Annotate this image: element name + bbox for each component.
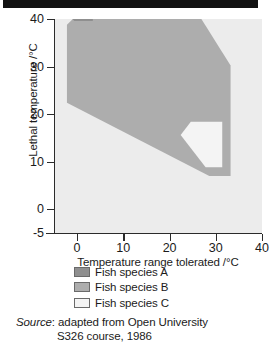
- legend-label-c: Fish species C: [95, 297, 169, 309]
- x-axis-label-20: 20: [150, 242, 190, 255]
- x-axis-tick-40: [262, 234, 263, 241]
- legend-item-fish-species-b: Fish species B: [0, 280, 280, 296]
- y-axis-tick-0: [47, 209, 54, 210]
- y-axis-label-minus5: -5: [4, 227, 44, 239]
- chart-legend: Fish species A Fish species B Fish speci…: [0, 264, 280, 311]
- page-top-black-bar: [3, 0, 258, 8]
- chart-figure: Lethal temperature /°C 40 30 20 10 0 -5 …: [0, 8, 280, 260]
- source-line-1: Source: adapted from Open University: [0, 315, 280, 329]
- x-axis-tick-10: [123, 234, 124, 241]
- y-axis-tick-20: [47, 114, 54, 115]
- source-line-2: S326 course, 1986: [0, 329, 280, 343]
- x-axis-label-0: 0: [57, 242, 97, 255]
- y-axis-label-40: 40: [4, 13, 44, 25]
- legend-item-fish-species-c: Fish species C: [0, 295, 280, 311]
- source-note: Source: adapted from Open University S32…: [0, 315, 280, 343]
- legend-item-fish-species-a: Fish species A: [0, 264, 280, 280]
- y-axis-tick-40: [47, 19, 54, 20]
- y-axis-label-10: 10: [4, 156, 44, 168]
- legend-swatch-icon-a: [74, 267, 90, 277]
- legend-label-a: Fish species A: [95, 266, 168, 278]
- legend-swatch-icon-c: [74, 298, 90, 308]
- y-axis-label-20: 20: [4, 108, 44, 120]
- y-axis-tick-10: [47, 162, 54, 163]
- x-axis-line: [46, 233, 262, 234]
- y-axis-label-0: 0: [4, 203, 44, 215]
- y-axis-tick-30: [47, 67, 54, 68]
- y-axis-label-30: 30: [4, 61, 44, 73]
- legend-swatch-icon-b: [74, 282, 90, 292]
- series-area-fish-species-a: [67, 19, 93, 21]
- x-axis-label-10: 10: [103, 242, 143, 255]
- x-axis-tick-20: [170, 234, 171, 241]
- y-axis-line: [54, 19, 55, 234]
- x-axis-label-40: 40: [242, 242, 280, 255]
- legend-label-b: Fish species B: [95, 281, 168, 293]
- plot-series-svg: [54, 19, 262, 233]
- source-word: Source: [16, 316, 52, 328]
- source-text-1: : adapted from Open University: [52, 316, 208, 328]
- y-axis-tick-minus5: [47, 233, 54, 234]
- x-axis-tick-0: [77, 234, 78, 241]
- x-axis-label-30: 30: [196, 242, 236, 255]
- x-axis-tick-30: [216, 234, 217, 241]
